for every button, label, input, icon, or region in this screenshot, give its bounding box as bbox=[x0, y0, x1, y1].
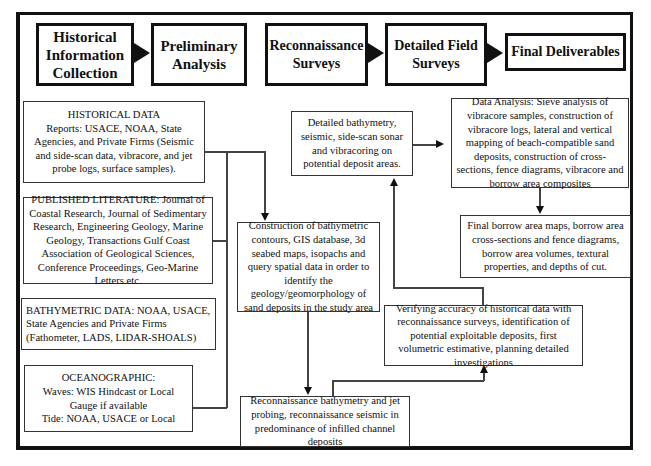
stage-historical-information-collection: Historical Information Collection bbox=[36, 23, 134, 86]
connector-line bbox=[205, 151, 265, 153]
stage-label: Historical Information Collection bbox=[39, 28, 131, 82]
connector-line bbox=[393, 287, 483, 289]
arrow-right-icon bbox=[436, 140, 444, 148]
stage-final-deliverables: Final Deliverables bbox=[505, 33, 626, 71]
data-analysis-box: Data Analysis: Sieve analysis of vibraco… bbox=[451, 98, 629, 188]
connector-line bbox=[193, 407, 227, 409]
connector-line bbox=[332, 380, 484, 382]
historical-data-title: HISTORICAL DATA bbox=[68, 108, 160, 122]
connector-line bbox=[226, 151, 228, 408]
final-borrow-text: Final borrow area maps, borrow area cros… bbox=[465, 219, 626, 273]
stage-arrow-icon bbox=[487, 43, 503, 63]
arrow-up-icon bbox=[390, 178, 398, 186]
stage-preliminary-analysis: Preliminary Analysis bbox=[151, 23, 247, 86]
arrow-down-icon bbox=[536, 206, 544, 214]
oceanographic-title: OCEANOGRAPHIC: bbox=[62, 371, 156, 385]
verifying-box: Verifying accuracy of historical data wi… bbox=[384, 305, 583, 366]
connector-line bbox=[213, 240, 227, 242]
published-literature-box: PUBLISHED LITERATURE: Journal of Coastal… bbox=[23, 197, 213, 284]
detailed-bathymetry-box: Detailed bathymetry, seismic, side-scan … bbox=[291, 111, 413, 176]
construction-text: Construction of bathymetric contours, GI… bbox=[242, 219, 375, 314]
oceanographic-line: Tide: NOAA, USACE or Local bbox=[42, 412, 176, 426]
oceanographic-line: Gauge if available bbox=[70, 399, 148, 413]
data-analysis-text: Data Analysis: Sieve analysis of vibraco… bbox=[456, 95, 624, 190]
historical-data-body: Reports: USACE, NOAA, State Agencies, an… bbox=[28, 122, 200, 176]
stage-reconnaissance-surveys: Reconnaissance Surveys bbox=[265, 23, 368, 86]
historical-data-box: HISTORICAL DATA Reports: USACE, NOAA, St… bbox=[23, 101, 205, 183]
connector-line bbox=[307, 312, 309, 389]
connector-line bbox=[539, 188, 541, 208]
bathymetric-data-box: BATHYMETRIC DATA: NOAA, USACE, State Age… bbox=[21, 298, 216, 350]
connector-line bbox=[332, 380, 334, 396]
connector-line bbox=[413, 144, 438, 146]
connector-line bbox=[393, 184, 395, 288]
stage-label: Preliminary Analysis bbox=[154, 37, 244, 73]
connector-line bbox=[264, 151, 266, 215]
stage-arrow-icon bbox=[134, 43, 150, 63]
stage-label: Detailed Field Surveys bbox=[388, 37, 484, 73]
stage-label: Reconnaissance Surveys bbox=[268, 37, 365, 73]
recon-bathymetry-text: Reconnaissance bathymetry and jet probin… bbox=[245, 394, 405, 448]
recon-bathymetry-box: Reconnaissance bathymetry and jet probin… bbox=[240, 396, 410, 447]
stage-detailed-field-surveys: Detailed Field Surveys bbox=[385, 23, 487, 86]
construction-box: Construction of bathymetric contours, GI… bbox=[237, 222, 380, 312]
bathymetric-data-text: BATHYMETRIC DATA: NOAA, USACE, State Age… bbox=[26, 304, 211, 345]
oceanographic-box: OCEANOGRAPHIC: Waves: WIS Hindcast or Lo… bbox=[24, 365, 193, 432]
stage-arrow-icon bbox=[368, 43, 384, 63]
detailed-bathymetry-text: Detailed bathymetry, seismic, side-scan … bbox=[296, 116, 408, 170]
oceanographic-line: Waves: WIS Hindcast or Local bbox=[43, 385, 174, 399]
published-literature-text: PUBLISHED LITERATURE: Journal of Coastal… bbox=[28, 193, 208, 288]
stage-label: Final Deliverables bbox=[511, 43, 620, 61]
verifying-text: Verifying accuracy of historical data wi… bbox=[389, 302, 578, 370]
final-borrow-box: Final borrow area maps, borrow area cros… bbox=[460, 215, 631, 278]
